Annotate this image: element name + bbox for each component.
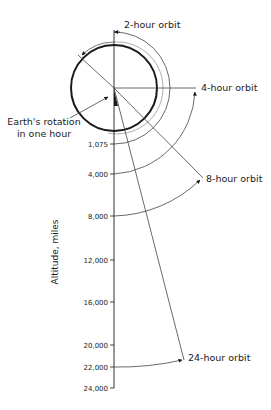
earth-rotation-radius bbox=[78, 55, 114, 88]
orbit-arc-24h bbox=[114, 360, 182, 367]
earth-rotation-label-line1: Earth's rotation bbox=[7, 116, 80, 127]
axis-title: Altitude, miles bbox=[50, 219, 60, 284]
orbit-label-4h: 4-hour orbit bbox=[201, 82, 258, 93]
orbit-label-2h: 2-hour orbit bbox=[124, 19, 181, 30]
orbit-label-8h: 8-hour orbit bbox=[206, 173, 263, 184]
tick-label-1075: 1,075 bbox=[88, 141, 108, 149]
orbit-label-24h: 24-hour orbit bbox=[188, 352, 251, 363]
tick-label-4000: 4,000 bbox=[88, 171, 108, 179]
tick-label-16000: 16,000 bbox=[84, 299, 109, 307]
tick-label-8000: 8,000 bbox=[88, 213, 108, 221]
orbit-arc-8h bbox=[114, 180, 200, 216]
tick-label-22000: 22,000 bbox=[84, 364, 109, 372]
tick-label-12000: 12,000 bbox=[84, 257, 109, 265]
tick-label-24000: 24,000 bbox=[84, 385, 109, 393]
orbit-period-diagram: 1,075 4,000 8,000 12,000 16,000 20,000 2… bbox=[0, 0, 271, 410]
radial-line-24h bbox=[114, 88, 184, 360]
tick-label-20000: 20,000 bbox=[84, 342, 109, 350]
rotation-wedge-icon bbox=[114, 90, 118, 106]
earth-rotation-label-line2: in one hour bbox=[17, 128, 71, 139]
axis-ticks bbox=[110, 144, 114, 388]
